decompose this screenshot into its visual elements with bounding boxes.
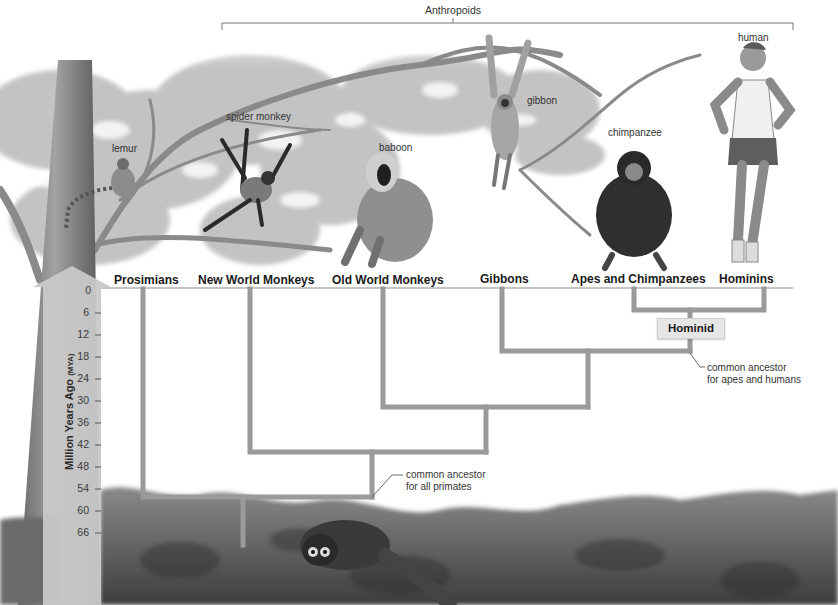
time-axis-title-text: Million Years Ago — [63, 379, 75, 470]
time-axis-unit: (MYA) — [66, 353, 75, 375]
time-axis-title: Million Years Ago (MYA) — [63, 353, 75, 470]
primate-evolution-diagram: Anthropoids lemur spider monkey baboon g… — [0, 0, 838, 605]
tick-marks — [0, 0, 838, 605]
